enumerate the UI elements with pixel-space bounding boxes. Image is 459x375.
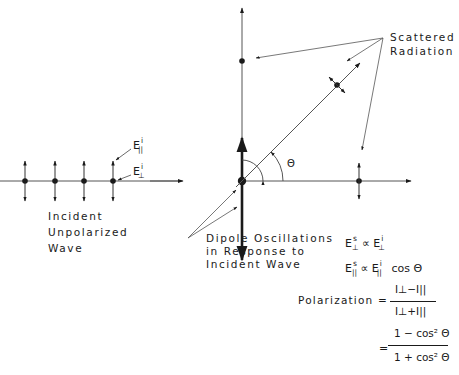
diagonal-scatter-direction	[236, 63, 360, 187]
forward-scatter-oscillator	[356, 163, 362, 199]
eq-sub: ⊥	[378, 243, 385, 252]
eq-part: E	[345, 262, 352, 275]
dipole-oscillations-label: Dipole Oscillations in Response to Incid…	[206, 232, 333, 271]
eq-sup: s	[353, 259, 357, 268]
equals-sign-2: =	[379, 342, 388, 356]
dipole-label-pointers	[188, 190, 237, 238]
label-line: Unpolarized	[48, 224, 128, 240]
fraction1-numerator: I⊥−I||	[395, 282, 426, 296]
superscript: i	[141, 136, 143, 145]
fraction2-bar	[388, 345, 448, 346]
label-line: Incident Wave	[206, 258, 333, 271]
e-parallel-pointer	[116, 149, 131, 160]
e-parallel-incident-label: Ei||	[133, 139, 143, 154]
polarization-label: Polarization =	[298, 293, 388, 307]
e-perp-pointer	[118, 175, 131, 180]
eq-cos: cos Θ	[391, 262, 422, 275]
theta-symbol: Θ	[287, 158, 295, 169]
theta-angle-label: Θ	[287, 157, 295, 171]
fraction1-bar	[390, 301, 436, 302]
parallel-relation-equation: Es|| ∝ Ei|| cos Θ	[345, 262, 422, 277]
eq-sub: ||	[377, 268, 382, 277]
eq-sup: s	[353, 234, 357, 243]
incident-wave-label: Incident Unpolarized Wave	[48, 208, 128, 256]
eq-sup: i	[380, 259, 382, 268]
scattered-radiation-pointers	[256, 38, 383, 150]
superscript: i	[141, 162, 143, 171]
eq-sub: ⊥	[352, 243, 359, 252]
eq-op: ∝	[362, 237, 370, 250]
label-line: Dipole Oscillations	[206, 232, 333, 245]
label-line: Wave	[48, 240, 128, 256]
perp-relation-equation: Es⊥ ∝ Ei⊥	[345, 237, 385, 252]
angle-arcs	[242, 152, 283, 181]
fraction1-denominator: I⊥+I||	[395, 304, 426, 318]
scattering-diagram: Scattered Radiation Ei|| Ei⊥ Θ Incident …	[0, 0, 459, 375]
eq-sub: ||	[352, 268, 357, 277]
eq-part: E	[345, 237, 352, 250]
subscript: ||	[138, 145, 143, 154]
label-line: Radiation	[390, 44, 455, 58]
subscript: ⊥	[138, 171, 145, 180]
scattered-radiation-label: Scattered Radiation	[390, 30, 455, 58]
label-line: Incident	[48, 208, 128, 224]
e-perp-incident-label: Ei⊥	[133, 165, 145, 180]
fraction2-numerator: 1 − cos² Θ	[394, 326, 450, 340]
label-line: in Response to	[206, 245, 333, 258]
label-line: Scattered	[390, 30, 455, 44]
fraction2-denominator: 1 + cos² Θ	[394, 350, 450, 364]
eq-op: ∝	[360, 262, 368, 275]
